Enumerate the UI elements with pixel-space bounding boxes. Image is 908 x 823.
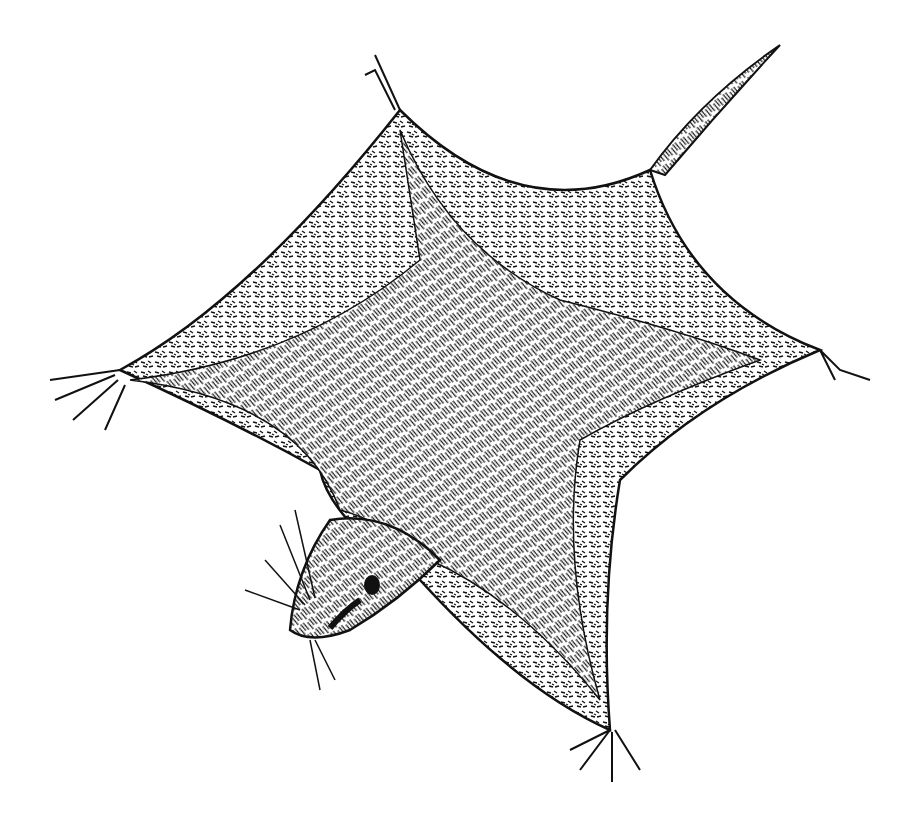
illustration-canvas <box>0 0 908 823</box>
tail <box>650 45 780 175</box>
eye <box>364 575 380 595</box>
glider-drawing <box>0 0 908 823</box>
